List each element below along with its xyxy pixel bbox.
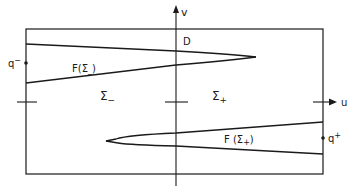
diagram-canvas: v u D q− q+ Σ− Σ+ F(Σ_) F (Σ+)	[0, 0, 357, 186]
upper-wedge-label: F(Σ_)	[72, 63, 96, 75]
q-plus-point	[321, 136, 325, 140]
domain-label: D	[183, 36, 191, 47]
q-plus-label: q+	[328, 131, 341, 144]
sigma-minus-label: Σ−	[100, 89, 115, 105]
sigma-plus-label: Σ+	[212, 89, 227, 105]
upper-wedge-bottom-edge	[26, 57, 256, 83]
q-minus-point	[24, 61, 28, 65]
upper-wedge-top-edge	[26, 44, 256, 57]
lower-wedge-top-edge	[106, 122, 323, 141]
u-axis-arrow-icon	[329, 99, 337, 106]
v-axis-label: v	[181, 6, 188, 19]
u-axis-label: u	[341, 97, 347, 108]
q-minus-label: q−	[8, 56, 21, 69]
lower-wedge-bottom-edge	[106, 141, 323, 154]
lower-wedge-label: F (Σ+)	[224, 134, 254, 147]
v-axis-arrow-icon	[173, 5, 179, 13]
